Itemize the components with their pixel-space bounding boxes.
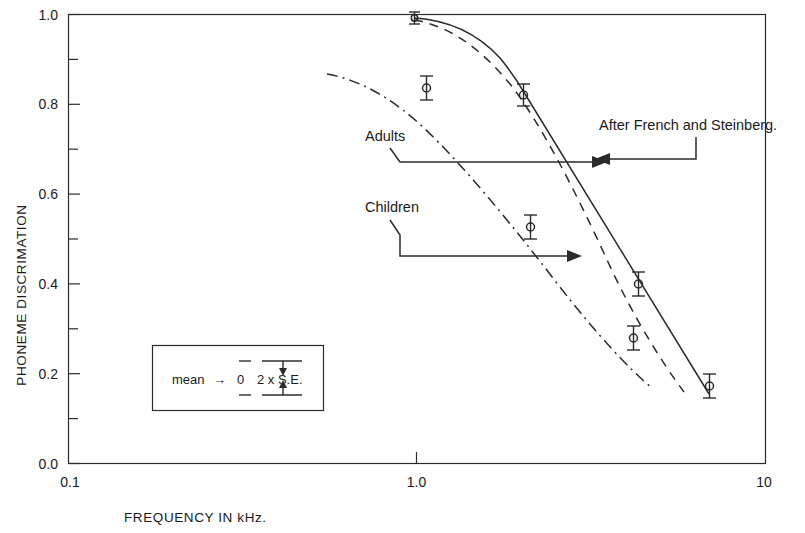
y-tick-label-4: 0.4 [39,276,59,292]
y-tick-label-2: 0.8 [39,96,59,112]
legend-marker-label: 0 [237,372,244,387]
annotation-french-label: After French and Steinberg. [599,117,777,133]
legend-arrow-glyph: → [213,372,226,387]
figure-container: 1.0 0.8 0.6 0.4 0.2 0.0 PHONEME DISCRIMA… [0,0,805,533]
annotation-children-label: Children [365,199,419,215]
x-tick-label-0.1: 0.1 [60,474,80,490]
data-point-adults-2 [517,84,530,106]
x-axis-title: FREQUENCY IN kHz. [124,510,267,525]
annotation-children-leader [390,220,567,256]
data-point-children-2 [524,215,537,239]
series-french-steinberg-dashed-curve [414,20,684,392]
y-tick-label-5: 0.2 [39,366,59,382]
phoneme-discrimination-chart: 1.0 0.8 0.6 0.4 0.2 0.0 PHONEME DISCRIMA… [0,0,805,533]
data-point-children-3 [627,326,640,350]
data-point-adults-4 [703,374,716,398]
data-point-adults-3 [632,272,645,296]
data-point-children-1 [420,76,433,100]
annotation-french-leader [610,137,696,159]
data-point-adults-1 [409,12,420,24]
y-tick-label-1: 1.0 [39,7,59,23]
x-tick-label-10: 10 [756,474,772,490]
annotation-children-arrowhead [567,250,582,262]
x-tick-label-1.0: 1.0 [407,474,427,490]
legend-mean-label: mean [172,372,205,387]
y-tick-label-6: 0.0 [39,456,59,472]
legend-inset: mean → 0 2 x S.E. [153,346,324,411]
series-adults-solid-tail [525,94,709,394]
legend-se-label: 2 x S.E. [257,372,303,387]
y-axis-title: PHONEME DISCRIMATION [14,204,29,385]
y-axis-ticks [69,15,81,464]
y-tick-label-3: 0.6 [39,186,59,202]
annotation-adults-label: Adults [365,128,405,144]
